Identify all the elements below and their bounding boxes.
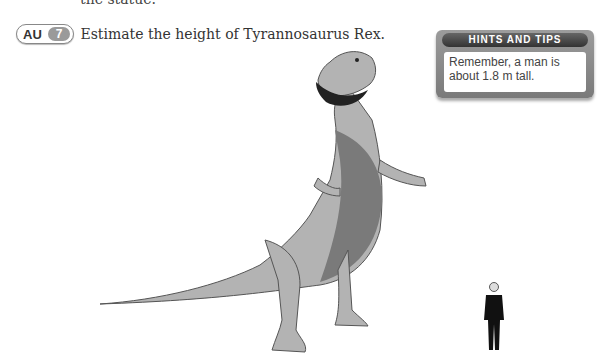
illustrations [0,0,612,360]
t-rex-illustration [100,52,426,352]
man-illustration [484,283,504,351]
